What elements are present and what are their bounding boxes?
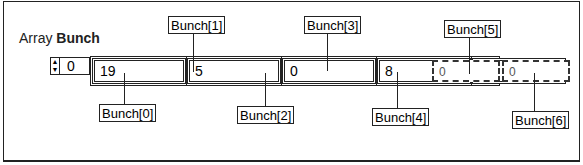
array-element-6-undefined: 0 (502, 60, 570, 82)
array-element-2[interactable]: 0 (284, 60, 374, 82)
label-bunch-0: Bunch[0] (99, 104, 156, 122)
label-bunch-4: Bunch[4] (372, 108, 429, 126)
array-title: Array Bunch (19, 30, 100, 46)
index-value[interactable]: 0 (67, 58, 75, 74)
array-element-0[interactable]: 19 (94, 60, 184, 82)
array-name: Bunch (56, 30, 100, 46)
index-control[interactable]: ▲▼ 0 (50, 57, 90, 75)
label-bunch-5: Bunch[5] (444, 20, 501, 38)
spinner-icon[interactable]: ▲▼ (51, 58, 60, 74)
label-bunch-1: Bunch[1] (168, 16, 225, 34)
label-bunch-3: Bunch[3] (304, 16, 361, 34)
label-bunch-6: Bunch[6] (512, 111, 569, 129)
array-element-5-undefined: 0 (432, 60, 500, 82)
label-bunch-2: Bunch[2] (237, 106, 294, 124)
